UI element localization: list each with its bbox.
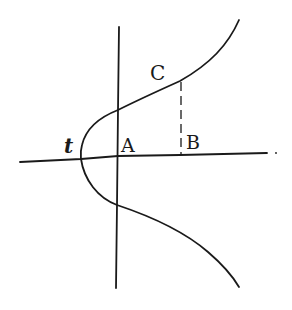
axis-end-dot bbox=[275, 152, 277, 154]
diagram-canvas: C A B t bbox=[0, 0, 292, 310]
diagram-drawing bbox=[0, 0, 292, 310]
vertical-axis-line bbox=[116, 27, 119, 288]
point-label-b: B bbox=[186, 133, 200, 152]
point-label-t: t bbox=[64, 136, 73, 156]
curve-lower-branch bbox=[81, 159, 239, 287]
point-label-a: A bbox=[121, 136, 135, 155]
point-label-c: C bbox=[150, 63, 165, 83]
curve-upper-branch bbox=[81, 20, 239, 159]
horizontal-axis-line bbox=[20, 153, 267, 162]
